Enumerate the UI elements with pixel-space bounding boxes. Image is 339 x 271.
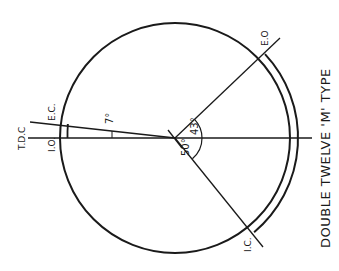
tdc-label: T.D.C xyxy=(17,127,27,151)
io-label: I.O. xyxy=(47,137,57,152)
eo-angle-label: 43° xyxy=(189,117,200,135)
exhaust-intake-arc xyxy=(254,54,298,232)
ec-line xyxy=(30,122,175,138)
ec-angle-label: 7° xyxy=(104,113,115,124)
diagram-caption: DOUBLE TWELVE 'M' TYPE xyxy=(318,68,333,248)
eo-label: E.O xyxy=(260,30,270,46)
ec-label: E.C. xyxy=(47,103,57,121)
ic-angle-label: 50° xyxy=(180,138,191,156)
valve-timing-diagram: 43° 50° 7° T.D.C E.C. I.O. E.O I.C. DOUB… xyxy=(0,0,339,271)
ic-angle-arc xyxy=(192,138,202,159)
ic-label: I.C. xyxy=(243,237,253,252)
